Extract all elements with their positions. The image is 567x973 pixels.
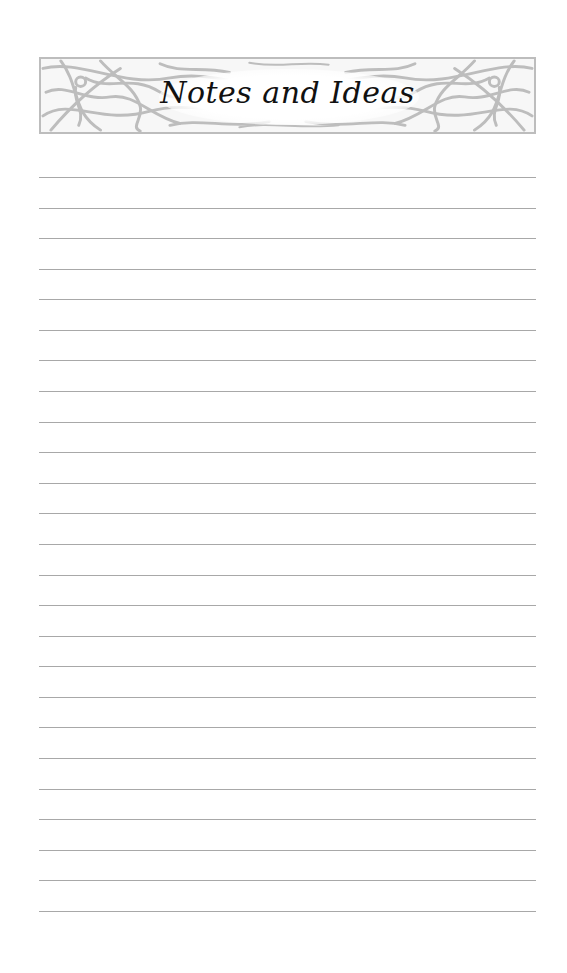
ruled-line <box>39 575 536 576</box>
ruled-line <box>39 636 536 637</box>
ruled-line <box>39 819 536 820</box>
ruled-line <box>39 697 536 698</box>
ruled-line <box>39 758 536 759</box>
ruled-line <box>39 299 536 300</box>
ruled-line <box>39 422 536 423</box>
ruled-line <box>39 238 536 239</box>
ruled-line <box>39 391 536 392</box>
ruled-line <box>39 911 536 912</box>
ruled-line <box>39 360 536 361</box>
ruled-line <box>39 727 536 728</box>
ruled-line <box>39 850 536 851</box>
ruled-line <box>39 544 536 545</box>
ruled-line <box>39 483 536 484</box>
ruled-line <box>39 666 536 667</box>
ruled-line <box>39 605 536 606</box>
ruled-line <box>39 177 536 178</box>
ruled-writing-area[interactable] <box>39 0 536 973</box>
ruled-line <box>39 208 536 209</box>
ruled-line <box>39 789 536 790</box>
ruled-line <box>39 330 536 331</box>
ruled-line <box>39 452 536 453</box>
ruled-line <box>39 880 536 881</box>
ruled-line <box>39 513 536 514</box>
ruled-line <box>39 269 536 270</box>
